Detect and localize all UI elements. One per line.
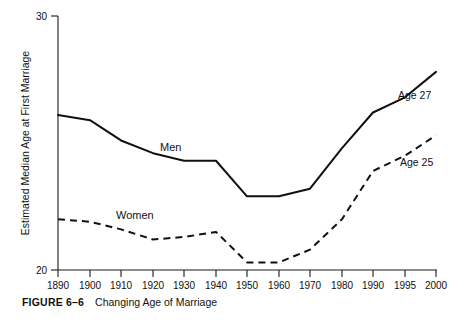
figure-caption: FIGURE 6–6Changing Age of Marriage: [22, 296, 217, 308]
x-tick-label-1910: 1910: [110, 280, 133, 291]
y-axis-title: Estimated Median Age at First Marriage: [19, 51, 31, 236]
figure-container: 30 20 Estimated Median Age at First Marr…: [0, 0, 471, 320]
x-tick-label-1920: 1920: [142, 280, 165, 291]
x-tick-labels: 1890 1900 1910 1920 1930 1940 1950 1960 …: [47, 280, 448, 291]
series-label-women: Women: [116, 209, 154, 221]
x-tick-label-1995: 1995: [394, 280, 417, 291]
y-tick-label-20: 20: [36, 265, 48, 276]
x-tick-label-1890: 1890: [47, 280, 70, 291]
figure-number: FIGURE 6–6: [22, 296, 84, 308]
y-tick-label-30: 30: [36, 11, 48, 22]
x-tick-label-1970: 1970: [299, 280, 322, 291]
x-tick-label-2000: 2000: [425, 280, 448, 291]
x-tick-label-1990: 1990: [362, 280, 385, 291]
x-tick-label-1960: 1960: [268, 280, 291, 291]
series-line-women: [58, 135, 436, 262]
x-tick-label-1950: 1950: [236, 280, 259, 291]
annotation-women-age: Age 25: [400, 156, 433, 168]
series-line-men: [58, 72, 436, 196]
annotation-men-age: Age 27: [398, 89, 431, 101]
x-tick-label-1940: 1940: [205, 280, 228, 291]
figure-caption-title: Changing Age of Marriage: [95, 296, 217, 308]
x-tick-label-1900: 1900: [79, 280, 102, 291]
x-tick-marks: [58, 270, 436, 277]
line-chart: 30 20 Estimated Median Age at First Marr…: [0, 0, 471, 320]
x-tick-label-1980: 1980: [331, 280, 354, 291]
x-tick-label-1930: 1930: [173, 280, 196, 291]
series-label-men: Men: [160, 141, 181, 153]
